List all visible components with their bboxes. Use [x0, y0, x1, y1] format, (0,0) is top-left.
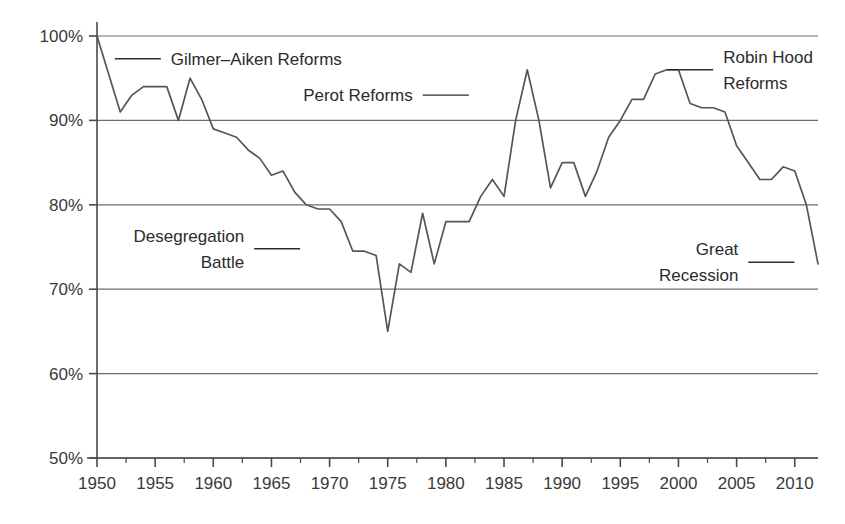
annotation-label-robin-hood: Reforms	[723, 74, 787, 93]
annotation-label-robin-hood: Robin Hood	[723, 48, 813, 67]
y-tick-label-50: 50%	[49, 449, 83, 468]
chart-figure: 50%60%70%80%90%100% 19501955196019651970…	[0, 0, 845, 524]
y-tick-label-70: 70%	[49, 280, 83, 299]
x-tick-label-1980: 1980	[427, 474, 465, 493]
x-tick-label-2000: 2000	[660, 474, 698, 493]
annotation-label-desegregation: Battle	[201, 253, 244, 272]
x-tick-label-1965: 1965	[253, 474, 291, 493]
annotation-label-great-recession: Recession	[659, 266, 738, 285]
x-tick-label-1975: 1975	[369, 474, 407, 493]
y-tick-label-60: 60%	[49, 365, 83, 384]
x-tick-label-1995: 1995	[601, 474, 639, 493]
annotation-label-gilmer-aiken: Gilmer–Aiken Reforms	[171, 50, 342, 69]
y-tick-label-90: 90%	[49, 111, 83, 130]
line-chart: 50%60%70%80%90%100% 19501955196019651970…	[0, 0, 845, 524]
y-tick-label-100: 100%	[40, 27, 83, 46]
x-tick-label-2010: 2010	[776, 474, 814, 493]
x-tick-label-1955: 1955	[136, 474, 174, 493]
annotation-label-desegregation: Desegregation	[134, 227, 245, 246]
annotation-label-perot: Perot Reforms	[303, 86, 413, 105]
annotation-label-great-recession: Great	[696, 240, 739, 259]
chart-background	[0, 0, 845, 524]
x-tick-label-1985: 1985	[485, 474, 523, 493]
x-tick-label-2005: 2005	[718, 474, 756, 493]
x-tick-label-1970: 1970	[311, 474, 349, 493]
x-tick-label-1990: 1990	[543, 474, 581, 493]
x-tick-label-1950: 1950	[78, 474, 116, 493]
y-tick-label-80: 80%	[49, 196, 83, 215]
x-tick-label-1960: 1960	[194, 474, 232, 493]
